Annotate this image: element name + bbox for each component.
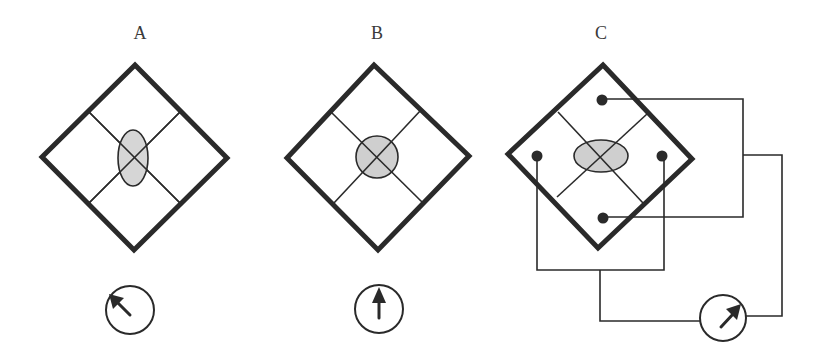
- panel-a: [42, 65, 227, 334]
- diagram-canvas: [0, 0, 821, 360]
- panel-c-electrode-bottom: [598, 213, 609, 224]
- panel-c-meter: [700, 295, 746, 341]
- panel-a-meter: [106, 286, 154, 334]
- panel-c-electrode-left: [532, 151, 543, 162]
- panel-c-wiring: [537, 99, 782, 321]
- panel-b: [287, 65, 469, 333]
- figure: A B C: [0, 0, 821, 360]
- panel-c-label: C: [595, 23, 607, 44]
- panel-c-electrode-right: [657, 151, 668, 162]
- panel-b-label: B: [371, 23, 383, 44]
- panel-a-meter-needle-icon: [109, 294, 130, 315]
- panel-b-meter-needle-icon: [372, 287, 386, 318]
- panel-b-cross-line-2: [333, 110, 421, 204]
- panel-c-electrode-top: [597, 95, 608, 106]
- panel-c: [508, 65, 782, 341]
- panel-a-label: A: [134, 23, 147, 44]
